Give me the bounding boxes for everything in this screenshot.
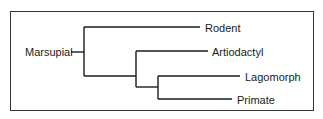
root-label: Marsupial [25, 46, 73, 58]
leaf-label-primate: Primate [237, 94, 275, 106]
leaf-label-artiodactyl: Artiodactyl [212, 46, 263, 58]
leaf-label-rodent: Rodent [205, 22, 240, 34]
leaf-label-lagomorph: Lagomorph [245, 71, 301, 83]
